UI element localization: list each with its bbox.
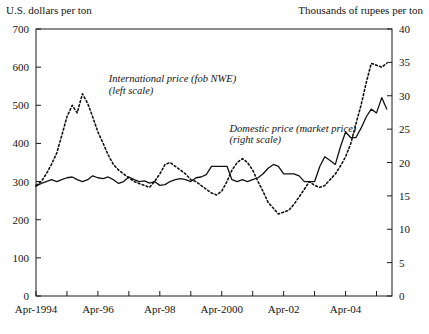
svg-text:5: 5: [399, 257, 405, 269]
svg-text:0: 0: [399, 290, 405, 302]
svg-text:25: 25: [399, 123, 411, 135]
svg-text:30: 30: [399, 90, 411, 102]
svg-text:20: 20: [399, 157, 411, 169]
series-line: [36, 98, 387, 186]
plot-canvas: 0100200300400500600700 0510152025303540 …: [0, 0, 429, 334]
x-axis-ticks: Apr-1994Apr-96Apr-98Apr-2000Apr-02Apr-04: [15, 291, 377, 315]
svg-text:40: 40: [399, 23, 411, 35]
svg-text:300: 300: [13, 176, 30, 188]
series-annotations: International price (fob NWE)(left scale…: [108, 73, 357, 146]
svg-text:600: 600: [13, 61, 30, 73]
series-annotation: International price (fob NWE): [108, 73, 237, 85]
svg-text:700: 700: [13, 23, 30, 35]
plot-frame: [36, 29, 392, 296]
svg-text:Apr-04: Apr-04: [330, 303, 362, 315]
svg-text:100: 100: [13, 252, 30, 264]
svg-text:200: 200: [13, 214, 30, 226]
left-axis-ticks: 0100200300400500600700: [13, 23, 42, 302]
svg-text:400: 400: [13, 137, 30, 149]
svg-text:Apr-2000: Apr-2000: [200, 303, 243, 315]
svg-text:500: 500: [13, 99, 30, 111]
right-axis-ticks: 0510152025303540: [387, 23, 411, 302]
svg-text:Apr-02: Apr-02: [268, 303, 300, 315]
svg-text:10: 10: [399, 223, 411, 235]
svg-text:Apr-1994: Apr-1994: [15, 303, 58, 315]
svg-text:0: 0: [24, 290, 30, 302]
svg-text:Apr-98: Apr-98: [144, 303, 176, 315]
svg-text:35: 35: [399, 56, 411, 68]
series-annotation: Domestic price (market price): [228, 123, 356, 135]
series-annotation: (left scale): [109, 85, 154, 97]
data-series-group: [36, 63, 387, 214]
series-line: [36, 63, 387, 214]
chart-figure: U.S. dollars per ton Thousands of rupees…: [0, 0, 429, 334]
svg-text:15: 15: [399, 190, 411, 202]
series-annotation: (right scale): [229, 134, 281, 146]
svg-text:Apr-96: Apr-96: [82, 303, 114, 315]
